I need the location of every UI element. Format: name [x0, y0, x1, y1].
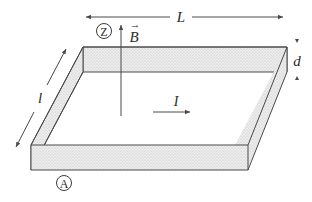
point-a-marker: A — [57, 176, 72, 191]
magnetic-field-label: B — [129, 29, 138, 45]
slab-front-face — [31, 145, 248, 170]
point-z-label: Z — [100, 25, 107, 39]
length-label: L — [176, 9, 185, 25]
thickness-label: d — [293, 53, 301, 69]
width-label: l — [38, 90, 42, 106]
point-a-label: A — [60, 177, 69, 191]
slab-diagram: L d l → B I Z A — [0, 0, 312, 202]
slab-back-face — [83, 47, 287, 72]
thickness-dimension: d — [293, 39, 301, 80]
length-dimension: L — [86, 9, 283, 25]
current-label: I — [173, 94, 180, 109]
current-vector: I — [153, 94, 190, 112]
point-z-marker: Z — [97, 24, 112, 39]
